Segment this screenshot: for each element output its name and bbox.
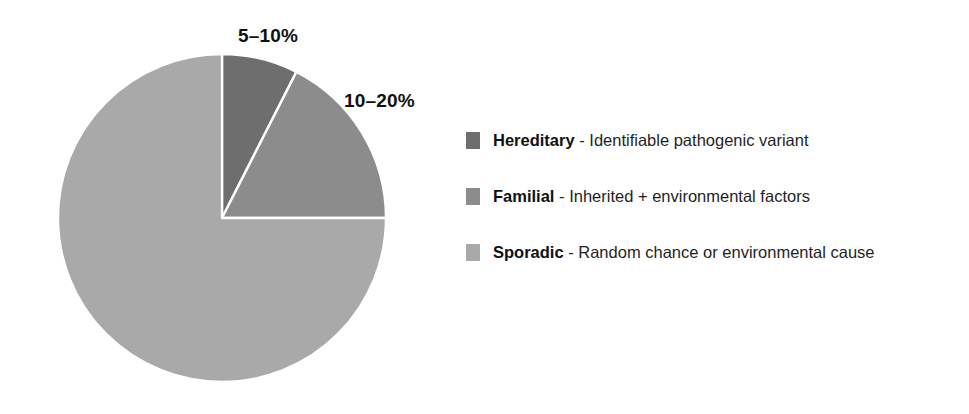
slice-label-familial: 10–20% — [344, 90, 415, 112]
legend-label-familial: Familial - Inherited + environmental fac… — [493, 188, 810, 205]
legend-label-hereditary: Hereditary - Identifiable pathogenic var… — [493, 132, 809, 149]
legend-label-sporadic: Sporadic - Random chance or environmenta… — [493, 244, 875, 261]
pie-chart-figure: 5–10% 10–20% Hereditary - Identifiable p… — [0, 0, 969, 414]
legend-dash-sporadic: - — [564, 243, 579, 261]
legend-dash-hereditary: - — [575, 131, 590, 149]
slice-label-hereditary: 5–10% — [238, 25, 298, 47]
chart-legend: Hereditary - Identifiable pathogenic var… — [466, 128, 956, 264]
legend-term-hereditary: Hereditary — [493, 131, 575, 149]
legend-term-familial: Familial — [493, 187, 554, 205]
legend-swatch-hereditary — [466, 132, 480, 149]
legend-description-familial: Inherited + environmental factors — [569, 187, 810, 205]
legend-item-familial: Familial - Inherited + environmental fac… — [466, 184, 956, 208]
legend-item-hereditary: Hereditary - Identifiable pathogenic var… — [466, 128, 956, 152]
legend-dash-familial: - — [554, 187, 569, 205]
legend-swatch-sporadic — [466, 244, 480, 261]
pie-chart-graphic — [57, 53, 387, 383]
pie-svg — [57, 53, 387, 383]
legend-description-hereditary: Identifiable pathogenic variant — [589, 131, 808, 149]
legend-item-sporadic: Sporadic - Random chance or environmenta… — [466, 240, 956, 264]
legend-swatch-familial — [466, 188, 480, 205]
legend-description-sporadic: Random chance or environmental cause — [578, 243, 874, 261]
legend-term-sporadic: Sporadic — [493, 243, 564, 261]
